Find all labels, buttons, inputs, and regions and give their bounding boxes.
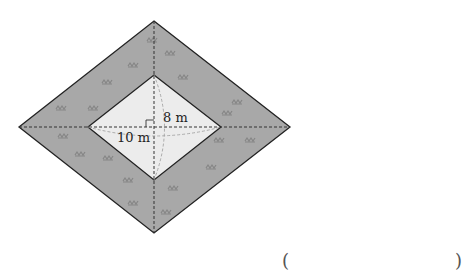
answer-close-paren: )	[455, 250, 462, 271]
horizontal-diagonal-label: 10 m	[117, 130, 150, 145]
rhombus-garden-diagram: 8 m 10 m	[0, 0, 470, 280]
answer-blank[interactable]	[298, 250, 448, 272]
vertical-diagonal-label: 8 m	[163, 110, 188, 125]
answer-open-paren: (	[282, 250, 289, 271]
